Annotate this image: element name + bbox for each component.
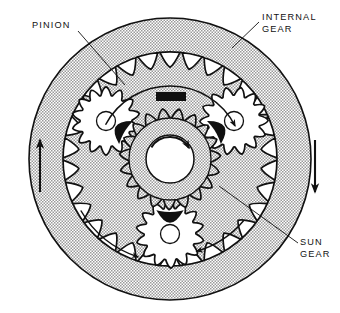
pinion-bottom-bore — [161, 225, 180, 244]
internal-gear-label-line: INTERNAL — [262, 12, 317, 22]
gear-diagram-figure: PINIONINTERNALGEARSUNGEAR — [0, 0, 340, 313]
sun-gear-bore — [146, 135, 194, 183]
planetary-gear-diagram: PINIONINTERNALGEARSUNGEAR — [0, 0, 340, 313]
internal-gear-label-line: GEAR — [262, 24, 293, 34]
sun-gear-label-line: GEAR — [300, 249, 331, 259]
pinion-label: PINION — [32, 20, 71, 30]
sun-gear-label-line: SUN — [300, 237, 323, 247]
pinion-label-line: PINION — [32, 20, 71, 30]
